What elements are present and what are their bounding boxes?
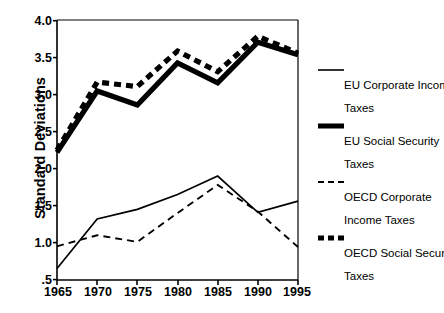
legend-label-line-1: OECD Corporate <box>344 186 444 209</box>
legend-label-eu-social-security-taxes: EU Social Security Taxes <box>344 130 444 176</box>
thick-solid-line-swatch <box>318 122 344 130</box>
series-line-eu-social-security-taxes <box>57 42 298 152</box>
legend-label-line-1: OECD Social Security <box>344 242 444 265</box>
legend-label-line-2: Taxes <box>344 97 444 120</box>
legend-label-line-1: EU Corporate Income <box>344 74 444 97</box>
thin-solid-line-swatch <box>318 66 344 74</box>
thick-dashed-line-swatch <box>318 234 344 242</box>
legend-label-line-2: Taxes <box>344 153 444 176</box>
chart-legend: EU Corporate Income Taxes EU Social Secu… <box>318 0 444 313</box>
legend-label-line-1: EU Social Security <box>344 130 444 153</box>
legend-label-line-2: Taxes <box>344 265 444 288</box>
legend-label-oecd-social-security-taxes: OECD Social Security Taxes <box>344 242 444 288</box>
chart-figure: Standard Deviations 4.0 3.5 3.0 2.5 2.0 … <box>0 0 444 313</box>
legend-label-eu-corporate-income-taxes: EU Corporate Income Taxes <box>344 74 444 120</box>
axis-frame <box>57 20 298 280</box>
legend-label-line-2: Income Taxes <box>344 209 444 232</box>
legend-label-oecd-corporate-income-taxes: OECD Corporate Income Taxes <box>344 186 444 232</box>
series-line-eu-corporate-income-taxes <box>57 176 298 268</box>
thin-dashed-line-swatch <box>318 178 344 186</box>
data-series-group <box>57 36 298 268</box>
